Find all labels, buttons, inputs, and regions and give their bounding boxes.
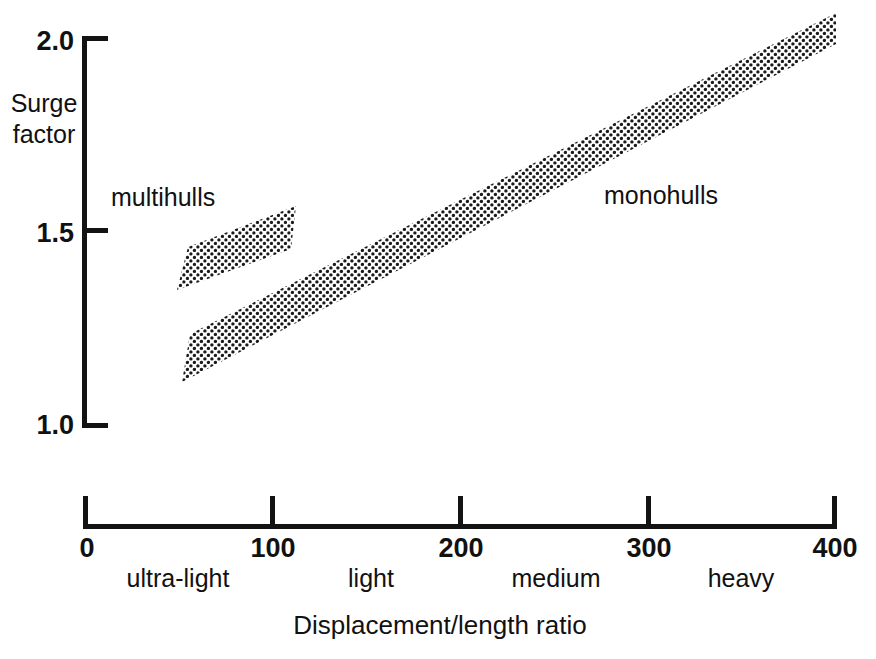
x-axis-label-200: 200	[438, 535, 483, 562]
x-axis-label-300: 300	[626, 535, 671, 562]
x-category-medium: medium	[512, 566, 601, 591]
y-axis-label-bottom: 1.0	[0, 412, 74, 439]
y-axis-title-line2: factor	[8, 119, 80, 150]
x-axis-tick-200	[458, 496, 463, 526]
x-axis-label-400: 400	[812, 535, 857, 562]
band-monohulls	[182, 13, 836, 382]
chart-canvas: 2.0 1.5 1.0 Surge factor 0 100 200 300 4…	[0, 0, 876, 659]
y-axis-title-line1: Surge	[11, 89, 78, 117]
x-category-light: light	[348, 566, 394, 591]
x-axis-title: Displacement/length ratio	[0, 612, 876, 638]
y-axis-title: Surge factor	[8, 88, 80, 149]
y-axis-tick-1.0	[85, 423, 108, 428]
x-axis-tick-400	[832, 496, 837, 526]
x-category-ultra-light: ultra-light	[127, 566, 230, 591]
x-axis-tick-300	[646, 496, 651, 526]
x-axis-label-100: 100	[250, 535, 295, 562]
x-axis-title-text: Displacement/length ratio	[293, 610, 586, 640]
y-axis-label-mid: 1.5	[0, 220, 74, 247]
x-category-heavy: heavy	[708, 566, 775, 591]
y-axis-label-top: 2.0	[0, 28, 74, 55]
x-axis-label-0: 0	[79, 535, 94, 562]
annotation-multihulls: multihulls	[111, 185, 215, 210]
band-multihulls	[177, 206, 296, 290]
annotation-monohulls: monohulls	[604, 183, 718, 208]
x-axis-tick-100	[270, 496, 275, 526]
x-axis-tick-0	[83, 496, 88, 526]
y-axis-tick-2.0	[85, 36, 108, 41]
y-axis-tick-1.5	[85, 228, 108, 233]
